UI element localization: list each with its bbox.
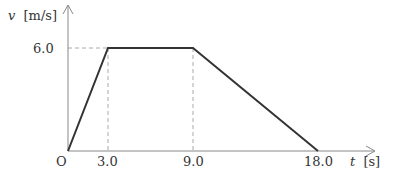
y-axis-label: v [m/s] (8, 8, 57, 23)
y-tick-6: 6.0 (33, 41, 54, 56)
x-tick-3: 3.0 (97, 154, 118, 169)
x-tick-9: 9.0 (183, 154, 204, 169)
velocity-time-chart: v [m/s] 6.0 O 3.0 9.0 18.0 t [s] (0, 0, 396, 179)
origin-label: O (56, 154, 67, 169)
x-tick-18: 18.0 (304, 154, 333, 169)
x-axis-label: t [s] (350, 154, 380, 169)
